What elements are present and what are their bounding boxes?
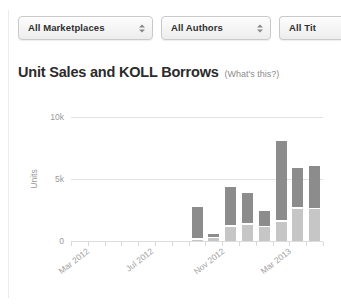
- x-axis-tick-label: Mar 2012: [57, 246, 91, 276]
- chart-bar[interactable]: [208, 235, 219, 241]
- x-axis-line: [71, 241, 323, 242]
- x-axis-tick: [306, 242, 307, 246]
- y-axis-tick-label: 5k: [55, 174, 64, 184]
- x-axis-tick: [323, 242, 324, 246]
- x-axis-tick: [222, 242, 223, 246]
- x-axis-tick: [172, 242, 173, 246]
- bar-segment-koll-borrows: [276, 141, 287, 220]
- bar-segment-unit-sales: [242, 225, 253, 241]
- bar-segment-koll-borrows: [192, 207, 203, 238]
- x-axis-tick: [155, 242, 156, 246]
- y-axis-tick-label: 10k: [50, 112, 64, 122]
- chart-bar[interactable]: [309, 167, 320, 241]
- bar-segment-koll-borrows: [292, 168, 303, 208]
- x-axis-tick: [273, 242, 274, 246]
- bar-segment-unit-sales: [309, 209, 320, 241]
- chart-bar[interactable]: [242, 195, 253, 242]
- x-axis-tick-label: Mar 2013: [259, 246, 293, 276]
- x-axis-tick: [289, 242, 290, 246]
- plot-area: 05k10kMar 2012Jul 2012Nov 2012Mar 2013: [71, 117, 323, 241]
- x-axis-tick: [239, 242, 240, 246]
- x-axis-tick: [138, 242, 139, 246]
- x-axis-tick: [105, 242, 106, 246]
- bar-segment-unit-sales: [276, 222, 287, 241]
- x-axis-tick-label: Jul 2012: [123, 246, 154, 274]
- bar-segment-unit-sales: [225, 227, 236, 241]
- bar-segment-koll-borrows: [259, 211, 270, 226]
- chart-bar[interactable]: [292, 169, 303, 241]
- x-axis-tick: [205, 242, 206, 246]
- bar-segment-koll-borrows: [309, 166, 320, 208]
- chart-bar[interactable]: [225, 189, 236, 241]
- bar-segment-unit-sales: [292, 209, 303, 241]
- x-axis-tick: [121, 242, 122, 246]
- x-axis-tick-label: Nov 2012: [192, 246, 227, 276]
- bar-segment-unit-sales: [208, 238, 219, 241]
- chart-bar[interactable]: [192, 209, 203, 241]
- x-axis-tick: [256, 242, 257, 246]
- bar-segment-unit-sales: [259, 227, 270, 241]
- x-axis-tick: [88, 242, 89, 246]
- y-axis-tick-label: 0: [59, 236, 64, 246]
- bar-segment-unit-sales: [192, 240, 203, 241]
- bar-segment-koll-borrows: [208, 234, 219, 237]
- x-axis-tick: [71, 242, 72, 246]
- chart-bar[interactable]: [259, 212, 270, 241]
- y-axis-title: Units: [29, 169, 39, 188]
- bar-segment-koll-borrows: [242, 193, 253, 223]
- x-axis-tick: [189, 242, 190, 246]
- bar-segment-koll-borrows: [225, 187, 236, 225]
- chart-bar[interactable]: [276, 142, 287, 241]
- gridline: [71, 117, 323, 118]
